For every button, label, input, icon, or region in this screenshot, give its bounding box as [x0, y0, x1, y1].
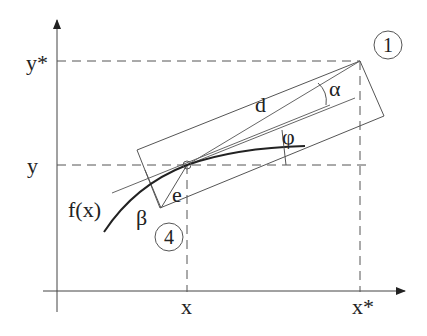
svg-text:4: 4: [164, 226, 174, 248]
guide-lines: [57, 61, 372, 292]
x-star-label: x*: [352, 294, 374, 319]
marker-1: 1: [374, 31, 402, 59]
y-label: y: [27, 153, 38, 178]
phi-label: φ: [282, 124, 295, 149]
y-star-label: y*: [26, 50, 48, 75]
tangent-line: [112, 105, 330, 193]
marker-4: 4: [155, 223, 183, 251]
distance-label: d: [255, 92, 266, 117]
x-label: x: [181, 294, 192, 319]
curve-fx: [104, 146, 305, 232]
alpha-arc: [318, 83, 326, 105]
error-label: e: [172, 182, 182, 207]
direction-line: [187, 98, 355, 165]
alpha-label: α: [329, 76, 341, 101]
rays: [112, 61, 360, 193]
svg-text:1: 1: [383, 34, 393, 56]
curve-label: f(x): [68, 197, 101, 222]
axes: [43, 20, 405, 312]
geometric-diagram: 1 4 y* y x x* f(x) d α φ β e: [0, 0, 427, 336]
beta-label: β: [136, 205, 147, 230]
